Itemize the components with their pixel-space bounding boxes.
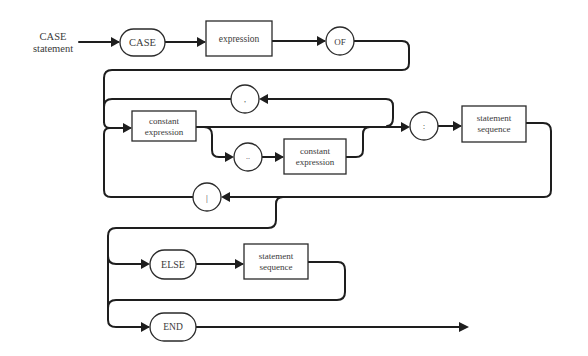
arrow-to-else [141, 259, 150, 269]
arrowheads [111, 36, 469, 332]
statement-sequence-1-line2: sequence [478, 124, 511, 134]
case-keyword-node: CASE [120, 29, 165, 56]
range-node: .. [234, 143, 262, 171]
constant-expression-1-line2: expression [145, 127, 184, 137]
colon-label: : [423, 121, 426, 131]
connector-lines [79, 41, 551, 327]
diagram-title-line2: statement [33, 43, 73, 54]
arrow-to-stmt-seq-1 [453, 121, 462, 131]
bar-label: | [206, 193, 208, 203]
expression-node: expression [206, 21, 272, 56]
case-statement-syntax-diagram: CASE statement CASE expression OF , cons… [0, 0, 588, 356]
statement-sequence-node-2: statement sequence [244, 244, 308, 279]
arrow-to-comma [259, 94, 268, 104]
statement-sequence-2-line2: sequence [260, 262, 293, 272]
end-keyword-label: END [163, 322, 183, 332]
case-keyword-label: CASE [129, 37, 156, 48]
arrow-to-case [111, 37, 120, 47]
bar-node: | [193, 183, 221, 211]
of-keyword-node: OF [326, 27, 354, 55]
diagram-title-line1: CASE [40, 31, 67, 42]
arrow-to-stmt-seq-2 [235, 259, 244, 269]
arrow-to-of [317, 36, 326, 46]
colon-node: : [410, 112, 438, 140]
statement-sequence-node-1: statement sequence [462, 106, 526, 142]
end-keyword-node: END [150, 313, 196, 341]
constant-expression-node-2: constant expression [284, 139, 346, 174]
comma-label: , [244, 95, 246, 104]
arrow-to-colon [401, 122, 410, 132]
constant-expression-1-line1: constant [149, 116, 179, 126]
constant-expression-node-1: constant expression [132, 111, 196, 141]
of-keyword-label: OF [334, 37, 346, 47]
else-keyword-label: ELSE [161, 259, 185, 270]
statement-sequence-2-line1: statement [259, 251, 294, 261]
arrow-to-const-expr-1 [123, 123, 132, 133]
arrow-to-expression [197, 37, 206, 47]
arrow-to-end [141, 322, 150, 332]
expression-label: expression [219, 34, 260, 44]
constant-expression-2-line1: constant [300, 146, 330, 156]
arrow-to-bar [221, 192, 230, 202]
range-label: .. [246, 152, 250, 161]
comma-node: , [231, 85, 259, 113]
arrow-to-const-expr-2 [275, 152, 284, 162]
arrow-to-range [225, 152, 234, 162]
arrow-exit [459, 322, 469, 332]
constant-expression-2-line2: expression [296, 157, 335, 167]
statement-sequence-1-line1: statement [477, 113, 512, 123]
else-keyword-node: ELSE [150, 250, 196, 279]
